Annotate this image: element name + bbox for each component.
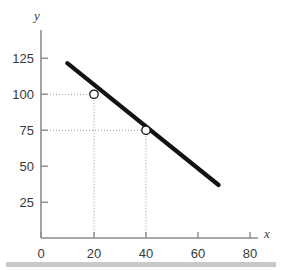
page-footer-band xyxy=(6,262,276,267)
x-tick-label-80: 80 xyxy=(243,246,257,261)
y-tick-label-100: 100 xyxy=(12,87,34,102)
data-line-series xyxy=(67,63,218,185)
x-tick-label-40: 40 xyxy=(139,246,153,261)
data-point-marker-20-100 xyxy=(90,90,98,98)
chart-page: y x 125 100 75 50 25 0 20 40 60 80 xyxy=(0,0,282,270)
line-chart: y x 125 100 75 50 25 0 20 40 60 80 xyxy=(0,0,282,270)
x-axis-label: x xyxy=(263,226,270,241)
y-tick-label-125: 125 xyxy=(12,51,34,66)
y-axis-label: y xyxy=(32,8,40,23)
y-tick-label-25: 25 xyxy=(20,195,34,210)
y-tick-label-75: 75 xyxy=(20,123,34,138)
x-tick-label-60: 60 xyxy=(191,246,205,261)
x-tick-label-0: 0 xyxy=(37,246,44,261)
y-tick-label-50: 50 xyxy=(20,159,34,174)
x-tick-label-20: 20 xyxy=(87,246,101,261)
data-point-marker-40-75 xyxy=(142,126,150,134)
